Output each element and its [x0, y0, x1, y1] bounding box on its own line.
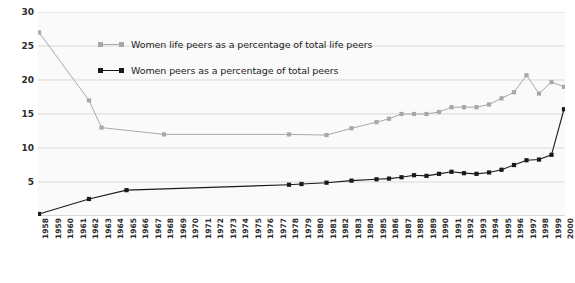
y-axis-tick-label: 15	[4, 110, 34, 119]
x-axis-tick-label: 1989	[430, 218, 438, 239]
x-axis-tick-label: 1990	[442, 218, 450, 239]
data-point	[449, 105, 453, 109]
y-axis-tick-label: 25	[4, 42, 34, 51]
data-point	[537, 157, 541, 161]
data-point	[99, 126, 103, 130]
x-axis-tick-label: 1964	[117, 218, 125, 239]
data-point	[499, 168, 503, 172]
x-axis-tick-label: 1960	[67, 218, 75, 239]
x-axis-tick-label: 1996	[517, 218, 525, 239]
data-point	[424, 112, 428, 116]
data-point	[437, 110, 441, 114]
data-point	[474, 105, 478, 109]
x-axis-tick-label: 1980	[317, 218, 325, 239]
data-point	[524, 73, 528, 77]
data-point	[512, 90, 516, 94]
x-axis-tick-label: 1969	[180, 218, 188, 239]
data-point	[562, 107, 565, 111]
x-axis-tick-label: 1997	[530, 218, 538, 239]
x-axis-tick-label: 1961	[80, 218, 88, 239]
legend-square-icon	[119, 42, 124, 47]
data-point	[512, 163, 516, 167]
x-axis-tick-label: 1983	[355, 218, 363, 239]
y-axis-tick-label: 30	[4, 8, 34, 17]
data-point	[87, 98, 91, 102]
data-point	[537, 92, 541, 96]
data-point	[474, 172, 478, 176]
x-axis-tick-label: 1965	[130, 218, 138, 239]
x-axis-tick-label: 1991	[455, 218, 463, 239]
legend-label: Women peers as a percentage of total pee…	[131, 65, 338, 76]
x-axis-tick-label: 1998	[542, 218, 550, 239]
data-point	[424, 174, 428, 178]
y-axis-tick-label: 20	[4, 76, 34, 85]
x-axis-tick-label: 1985	[380, 218, 388, 239]
data-point	[412, 112, 416, 116]
x-axis-tick-label: 1958	[42, 218, 50, 239]
data-point	[399, 112, 403, 116]
y-axis: 51015202530	[0, 12, 34, 216]
x-axis-tick-label: 1988	[417, 218, 425, 239]
y-axis-tick-label: 10	[4, 144, 34, 153]
data-point	[162, 132, 166, 136]
data-point	[374, 120, 378, 124]
data-point	[549, 153, 553, 157]
data-point	[287, 132, 291, 136]
legend-square-icon	[98, 68, 103, 73]
data-point	[562, 85, 565, 89]
data-point	[287, 183, 291, 187]
series-line-1	[39, 109, 564, 214]
x-axis-tick-label: 1982	[342, 218, 350, 239]
legend-marker-icon	[98, 39, 124, 49]
x-axis-tick-label: 1984	[367, 218, 375, 239]
data-point	[499, 96, 503, 100]
data-point	[87, 197, 91, 201]
x-axis-tick-label: 1987	[405, 218, 413, 239]
data-point	[437, 172, 441, 176]
x-axis-tick-label: 1977	[280, 218, 288, 239]
x-axis-tick-label: 1975	[255, 218, 263, 239]
legend-item-0[interactable]: Women life peers as a percentage of tota…	[98, 34, 398, 54]
data-point	[449, 170, 453, 174]
data-point	[124, 188, 128, 192]
x-axis-tick-label: 1981	[330, 218, 338, 239]
data-point	[549, 80, 553, 84]
legend-square-icon	[119, 68, 124, 73]
chart-container: 51015202530 Women life peers as a percen…	[0, 0, 575, 283]
legend-square-icon	[98, 42, 103, 47]
data-point	[387, 177, 391, 181]
data-point	[349, 126, 353, 130]
x-axis-tick-label: 1970	[192, 218, 200, 239]
legend-item-1[interactable]: Women peers as a percentage of total pee…	[98, 60, 398, 80]
data-point	[38, 30, 41, 34]
data-point	[387, 117, 391, 121]
x-axis-tick-label: 1963	[105, 218, 113, 239]
x-axis-tick-label: 1972	[217, 218, 225, 239]
data-point	[412, 173, 416, 177]
x-axis-tick-label: 1999	[555, 218, 563, 239]
legend-marker-icon	[98, 65, 124, 75]
x-axis-tick-label: 1979	[305, 218, 313, 239]
x-axis-tick-label: 1995	[505, 218, 513, 239]
x-axis-tick-label: 1986	[392, 218, 400, 239]
x-axis-tick-label: 1978	[292, 218, 300, 239]
data-point	[299, 182, 303, 186]
x-axis-tick-label: 1973	[230, 218, 238, 239]
x-axis-tick-label: 1976	[267, 218, 275, 239]
data-point	[374, 177, 378, 181]
x-axis-tick-label: 2000	[567, 218, 575, 239]
x-axis-tick-label: 1959	[55, 218, 63, 239]
data-point	[399, 175, 403, 179]
legend-label: Women life peers as a percentage of tota…	[131, 39, 372, 50]
data-point	[349, 179, 353, 183]
data-point	[38, 212, 41, 216]
x-axis-tick-label: 1966	[142, 218, 150, 239]
x-axis-tick-label: 1993	[480, 218, 488, 239]
x-axis-tick-label: 1994	[492, 218, 500, 239]
data-point	[487, 170, 491, 174]
data-point	[462, 105, 466, 109]
data-point	[487, 102, 491, 106]
data-point	[324, 181, 328, 185]
x-axis-tick-label: 1992	[467, 218, 475, 239]
data-point	[524, 158, 528, 162]
